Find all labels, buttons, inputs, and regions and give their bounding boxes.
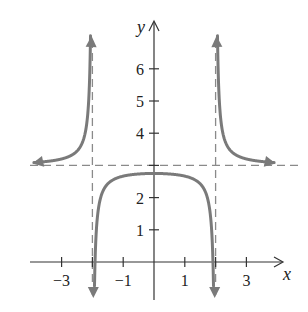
y-axis-label: y [135, 17, 145, 37]
x-tick-label: −1 [115, 272, 132, 289]
left-branch-curve [34, 36, 91, 163]
asymptote-lines [30, 40, 300, 300]
arrow-down-icon [88, 287, 99, 298]
y-tick-label: 4 [136, 125, 144, 142]
arrow-up-icon [211, 36, 222, 47]
function-graph: −3−11312456 x y [0, 0, 308, 312]
axes [30, 21, 283, 300]
right-branch-curve [217, 36, 274, 163]
arrow-up-icon [86, 36, 97, 47]
y-tick-label: 1 [136, 222, 144, 239]
y-tick-label: 6 [136, 61, 144, 78]
y-tick-label: 5 [136, 93, 144, 110]
x-tick-label: 1 [181, 272, 189, 289]
x-tick-label: −3 [53, 272, 70, 289]
x-tick-label: 3 [242, 272, 250, 289]
y-tick-label: 2 [136, 190, 144, 207]
x-axis-label: x [282, 264, 291, 284]
arrow-down-icon [209, 287, 220, 298]
